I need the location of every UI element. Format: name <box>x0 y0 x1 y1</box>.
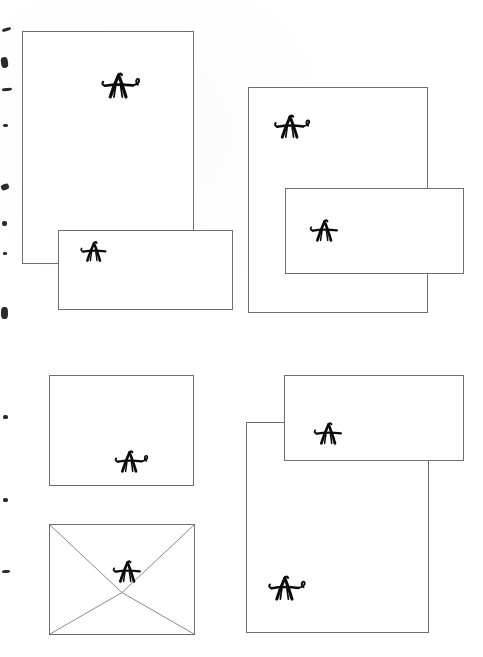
stationery-item-card-landscape-upper-left <box>58 230 233 310</box>
monogram-a-icon <box>110 448 150 474</box>
monogram-a-icon <box>269 112 312 140</box>
stationery-item-envelope-lower-left <box>49 524 195 635</box>
page-edge-mark <box>3 252 7 255</box>
monogram-a-icon <box>263 573 308 602</box>
stationery-item-card-landscape-lower-left <box>49 375 194 486</box>
stationery-item-card-landscape-upper-right <box>285 188 464 274</box>
monogram-a-icon <box>305 217 345 243</box>
page-edge-mark <box>2 27 11 33</box>
page-edge-mark <box>0 57 8 69</box>
page-edge-mark <box>2 87 12 91</box>
envelope-flap-lines <box>50 525 194 634</box>
page-edge-mark <box>0 183 10 192</box>
page-edge-mark <box>1 307 8 319</box>
page-edge-mark <box>3 498 8 502</box>
page-edge-mark <box>2 221 7 226</box>
page-edge-mark <box>2 570 10 574</box>
monogram-a-icon <box>108 558 148 584</box>
stationery-item-card-landscape-lower-right <box>284 375 464 461</box>
monogram-a-icon <box>309 420 349 446</box>
page-edge-mark <box>3 124 8 127</box>
scanned-page <box>0 0 483 657</box>
page-edge-marks <box>0 0 16 657</box>
monogram-a-icon <box>76 239 113 263</box>
page-edge-mark <box>3 415 8 419</box>
monogram-a-icon <box>96 70 143 100</box>
